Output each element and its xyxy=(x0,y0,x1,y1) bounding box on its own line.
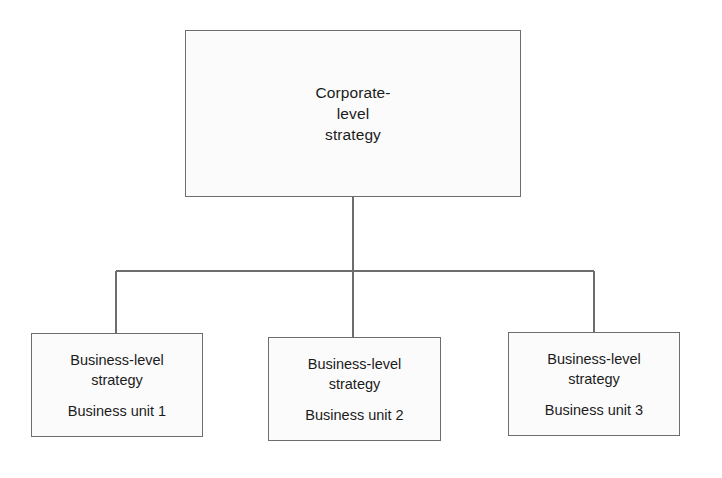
node-business-unit-1[interactable]: Business-level strategy Business unit 1 xyxy=(31,333,203,437)
unit-3-strategy-line-2: strategy xyxy=(568,369,620,389)
unit-3-label: Business unit 3 xyxy=(545,400,643,420)
corporate-line-2: level xyxy=(337,103,369,124)
corporate-line-1: Corporate- xyxy=(315,82,390,103)
corporate-line-3: strategy xyxy=(325,124,381,145)
unit-2-strategy-line-2: strategy xyxy=(329,374,381,394)
unit-2-strategy-line-1: Business-level xyxy=(308,354,402,374)
node-business-unit-2[interactable]: Business-level strategy Business unit 2 xyxy=(268,337,441,441)
unit-2-label: Business unit 2 xyxy=(305,405,403,425)
node-business-unit-3[interactable]: Business-level strategy Business unit 3 xyxy=(508,332,680,436)
node-corporate-level-strategy[interactable]: Corporate- level strategy xyxy=(185,30,521,197)
unit-3-strategy-line-1: Business-level xyxy=(547,349,641,369)
unit-1-strategy-line-1: Business-level xyxy=(70,350,164,370)
unit-1-label: Business unit 1 xyxy=(68,401,166,421)
diagram-canvas: Corporate- level strategy Business-level… xyxy=(0,0,722,478)
unit-1-strategy-line-2: strategy xyxy=(91,370,143,390)
